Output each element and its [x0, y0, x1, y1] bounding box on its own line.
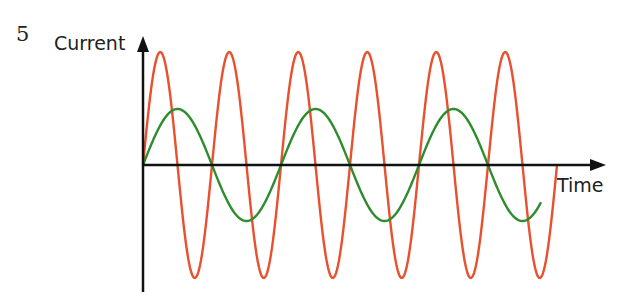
y-axis-arrow-icon: [137, 36, 149, 52]
current-time-graph: [0, 0, 619, 304]
x-axis-arrow-icon: [590, 159, 606, 171]
